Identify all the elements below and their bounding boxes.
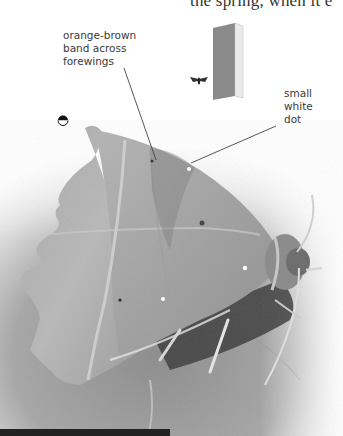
book-icon [211, 22, 247, 102]
small-moth-icon [189, 76, 209, 86]
moth-photo [0, 0, 343, 436]
half-filled-circle-icon [57, 114, 69, 127]
annotation-white-dot: small white dot [284, 87, 334, 126]
annotation-band: orange-brown band across forewings [63, 29, 153, 68]
field-guide-page: the spring, when it e [0, 0, 343, 436]
photo-strip-below [0, 429, 170, 436]
